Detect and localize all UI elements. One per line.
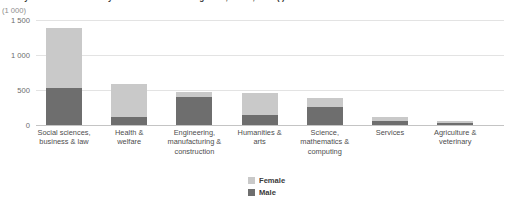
legend-swatch-female — [248, 177, 255, 184]
legend-swatch-male — [248, 189, 255, 196]
legend-item-female: Female — [248, 176, 285, 185]
bar-segment-female — [46, 28, 82, 88]
bar-segment-female — [242, 93, 278, 114]
category-label-7: Agriculture &veterinary — [416, 128, 494, 147]
bar-segment-male — [46, 88, 82, 125]
bar-segment-male — [372, 121, 408, 125]
legend-label-female: Female — [259, 176, 285, 185]
bar-segment-male — [307, 107, 343, 125]
gridline-500 — [36, 90, 504, 91]
y-tick-label-500: 500 — [0, 86, 30, 95]
bar-4 — [242, 93, 278, 125]
legend-item-male: Male — [248, 188, 285, 197]
bar-segment-male — [111, 117, 147, 125]
bar-segment-male — [176, 97, 212, 125]
bar-segment-male — [242, 115, 278, 126]
bar-3 — [176, 92, 212, 125]
gridline-1500 — [36, 20, 504, 21]
bar-segment-female — [307, 98, 343, 107]
gridline-1000 — [36, 55, 504, 56]
chart-figure: Tertiary students in the EU by field of … — [0, 0, 508, 209]
gridline-0 — [36, 125, 504, 126]
y-axis-unit-label: (1 000) — [2, 6, 26, 15]
plot-area — [36, 20, 504, 125]
y-tick-label-1000: 1 000 — [0, 51, 30, 60]
y-tick-label-1500: 1 500 — [0, 16, 30, 25]
chart-title: Tertiary students in the EU by field of … — [0, 0, 508, 4]
bar-1 — [46, 28, 82, 125]
chart-legend: Female Male — [248, 176, 285, 200]
bar-7 — [437, 121, 473, 125]
bar-segment-female — [111, 84, 147, 117]
legend-label-male: Male — [259, 188, 276, 197]
bar-5 — [307, 98, 343, 125]
bar-6 — [372, 117, 408, 125]
bar-segment-male — [437, 123, 473, 125]
bar-2 — [111, 84, 147, 125]
